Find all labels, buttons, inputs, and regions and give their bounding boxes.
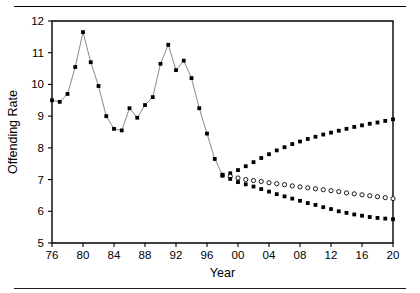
offending-rate-line-chart: 768084889296000408121620 56789101112 Yea… xyxy=(0,0,420,293)
data-point-filled xyxy=(360,123,364,127)
x-tick-label: 84 xyxy=(108,249,121,261)
y-tick-label: 12 xyxy=(31,15,44,27)
data-point-filled xyxy=(337,129,341,133)
data-point-filled xyxy=(120,129,124,133)
data-point-open xyxy=(236,176,240,180)
data-point-filled xyxy=(66,92,70,96)
data-point-filled xyxy=(182,59,186,63)
data-point-filled xyxy=(50,98,54,102)
data-point-filled xyxy=(360,214,364,218)
data-point-open xyxy=(306,186,310,190)
data-point-filled xyxy=(221,174,225,178)
data-point-filled xyxy=(290,142,294,146)
data-point-open xyxy=(244,177,248,181)
data-point-filled xyxy=(352,125,356,129)
data-point-open xyxy=(321,188,325,192)
data-point-filled xyxy=(252,160,256,164)
y-tick-label: 11 xyxy=(32,47,44,59)
data-point-filled xyxy=(321,205,325,209)
data-point-filled xyxy=(329,131,333,135)
data-point-filled xyxy=(267,152,271,156)
data-point-open xyxy=(329,189,333,193)
x-axis-ticks: 768084889296000408121620 xyxy=(46,243,400,261)
data-point-filled xyxy=(383,217,387,221)
data-point-filled xyxy=(236,180,240,184)
data-point-open xyxy=(368,194,372,198)
x-tick-label: 00 xyxy=(232,249,245,261)
x-tick-label: 88 xyxy=(139,249,152,261)
y-tick-label: 8 xyxy=(38,142,44,154)
data-point-filled xyxy=(128,106,132,110)
y-tick-label: 7 xyxy=(38,174,44,186)
data-point-filled xyxy=(275,192,279,196)
axes-group xyxy=(52,21,393,243)
x-tick-label: 04 xyxy=(263,249,276,261)
data-point-filled xyxy=(135,116,139,120)
data-point-filled xyxy=(298,140,302,144)
data-point-filled xyxy=(190,76,194,80)
x-tick-label: 76 xyxy=(46,249,59,261)
data-point-filled xyxy=(345,127,349,131)
data-point-filled xyxy=(290,197,294,201)
y-tick-label: 10 xyxy=(31,78,44,90)
y-tick-label: 6 xyxy=(38,205,44,217)
data-point-filled xyxy=(383,119,387,123)
data-point-filled xyxy=(321,133,325,137)
x-tick-label: 96 xyxy=(201,249,214,261)
data-point-filled xyxy=(143,103,147,107)
y-axis-ticks: 56789101112 xyxy=(31,15,52,249)
data-point-filled xyxy=(298,199,302,203)
data-point-filled xyxy=(252,185,256,189)
data-point-open xyxy=(337,190,341,194)
series-upper-projection xyxy=(221,117,395,176)
series-connector-line xyxy=(52,32,223,175)
data-point-filled xyxy=(314,135,318,139)
data-point-filled xyxy=(283,194,287,198)
data-point-filled xyxy=(166,43,170,47)
data-point-filled xyxy=(306,201,310,205)
x-tick-label: 16 xyxy=(356,249,369,261)
series-observed-offending-rate xyxy=(50,30,224,177)
data-point-open xyxy=(375,195,379,199)
data-point-filled xyxy=(159,62,163,66)
data-point-filled xyxy=(376,121,380,125)
figure-container: 768084889296000408121620 56789101112 Yea… xyxy=(0,0,420,293)
x-tick-label: 12 xyxy=(325,249,338,261)
x-tick-label: 08 xyxy=(294,249,307,261)
data-point-open xyxy=(344,191,348,195)
data-point-filled xyxy=(329,207,333,211)
data-point-filled xyxy=(174,68,178,72)
x-tick-label: 80 xyxy=(77,249,90,261)
data-point-filled xyxy=(197,106,201,110)
data-point-filled xyxy=(244,164,248,168)
plot-frame xyxy=(52,21,393,243)
data-point-filled xyxy=(73,65,77,69)
data-point-open xyxy=(383,196,387,200)
data-point-open xyxy=(259,179,263,183)
data-point-filled xyxy=(275,148,279,152)
data-point-filled xyxy=(267,190,271,194)
data-point-open xyxy=(267,181,271,185)
data-point-filled xyxy=(228,177,232,181)
data-point-filled xyxy=(97,84,101,88)
data-point-filled xyxy=(345,211,349,215)
data-point-filled xyxy=(205,132,209,136)
data-point-filled xyxy=(81,30,85,34)
chart-plot-area: 768084889296000408121620 56789101112 Yea… xyxy=(0,0,420,293)
data-point-filled xyxy=(104,114,108,118)
y-tick-label: 5 xyxy=(38,237,44,249)
data-point-filled xyxy=(376,216,380,220)
data-point-filled xyxy=(283,145,287,149)
data-point-filled xyxy=(306,137,310,141)
data-point-open xyxy=(352,192,356,196)
data-point-open xyxy=(282,183,286,187)
data-point-filled xyxy=(368,215,372,219)
data-point-filled xyxy=(151,95,155,99)
data-point-open xyxy=(313,187,317,191)
data-point-open xyxy=(290,184,294,188)
data-point-filled xyxy=(89,60,93,64)
y-axis-title: Offending Rate xyxy=(6,90,20,174)
data-point-filled xyxy=(112,127,116,131)
data-point-filled xyxy=(391,117,395,121)
data-series-group xyxy=(50,30,395,221)
